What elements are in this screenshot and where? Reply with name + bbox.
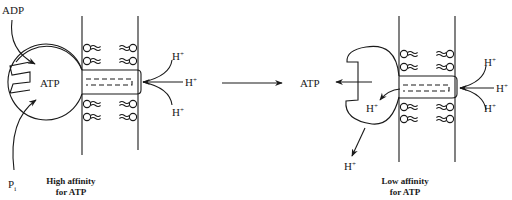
inner-proton-arrow-icon [380,89,400,100]
caption-low-affinity-sub: for ATP [390,187,421,197]
proton-label-top: H+ [172,50,184,62]
proton-label-mid: H+ [496,82,508,94]
enzyme-atp-label: ATP [40,77,60,89]
pi-label: Pi [8,178,16,193]
atp-synthase-diagram: ATP ADP Pi H+ H+ H+ High affinity for AT… [0,0,512,200]
proton-label-mid: H+ [185,76,197,88]
caption-high-affinity: High affinity [46,176,96,186]
right-state-low-affinity: ATP H+ H+ [300,16,508,197]
released-atp-label: ATP [300,77,320,89]
adp-label: ADP [2,4,24,16]
inner-proton-label: H+ [366,102,378,114]
caption-low-affinity: Low affinity [381,176,429,186]
released-proton-arrow-icon [352,128,365,156]
proton-channel-icon [399,76,457,98]
proton-arrows-icon [143,60,183,105]
proton-label-top: H+ [484,56,496,68]
pi-arrow-icon [13,100,36,170]
released-proton-label: H+ [344,160,356,172]
proton-label-bottom: H+ [484,102,496,114]
lipid-bilayer-icon [83,44,136,120]
adp-arrow-icon [11,20,35,64]
caption-high-affinity-sub: for ATP [56,187,87,197]
lipid-bilayer-icon [400,50,453,122]
left-state-high-affinity: ATP ADP Pi H+ H+ H+ High affinity for AT… [2,4,197,197]
proton-label-bottom: H+ [172,106,184,118]
